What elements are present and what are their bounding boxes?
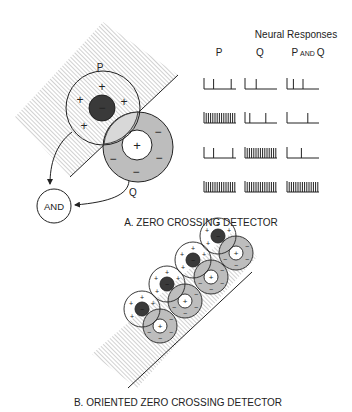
svg-text:−: −	[220, 280, 224, 287]
svg-text:−: −	[209, 286, 213, 293]
svg-text:−: −	[194, 291, 198, 298]
and-label: AND	[44, 201, 64, 212]
column-header-p: P	[216, 47, 223, 58]
svg-text:−: −	[183, 310, 187, 317]
svg-text:−: −	[169, 316, 173, 323]
svg-text:−: −	[172, 304, 176, 311]
spike-train-q-row-4	[245, 181, 277, 192]
column-header-p-and-q: PANDQ	[291, 47, 324, 58]
spike-train-p-and-q-row-4	[287, 181, 319, 192]
arrow-q-to-and	[75, 181, 129, 205]
svg-text:+: +	[181, 264, 185, 271]
caption-a: A. ZERO CROSSING DETECTOR	[124, 217, 278, 228]
svg-text:−: −	[234, 262, 238, 269]
and-gate: AND	[37, 189, 71, 223]
svg-text:−: −	[220, 267, 224, 274]
column-header-q: Q	[256, 47, 264, 58]
spike-train-p-row-4	[204, 181, 236, 192]
label-q: Q	[129, 187, 137, 198]
svg-text:+: +	[130, 313, 134, 320]
svg-text:−: −	[132, 165, 139, 179]
svg-text:−: −	[155, 151, 162, 165]
svg-text:+: +	[158, 322, 163, 331]
spike-train-p-and-q-row-1	[287, 78, 319, 89]
svg-text:−: −	[216, 233, 220, 240]
svg-text:+: +	[76, 93, 83, 107]
svg-text:+: +	[155, 288, 159, 295]
svg-text:−: −	[169, 329, 173, 336]
svg-text:+: +	[165, 269, 169, 276]
svg-text:+: +	[80, 119, 87, 133]
neural-responses-table: Neural Responses P Q PANDQ	[204, 29, 337, 192]
svg-text:+: +	[154, 275, 158, 282]
spike-train-p-row-2	[204, 112, 236, 123]
svg-text:+: +	[234, 249, 239, 258]
svg-text:+: +	[206, 240, 210, 247]
svg-text:+: +	[180, 251, 184, 258]
svg-text:−: −	[198, 280, 202, 287]
svg-text:−: −	[140, 306, 144, 313]
svg-text:+: +	[176, 275, 180, 282]
spike-train-p-and-q-row-3	[287, 147, 319, 158]
svg-text:−: −	[245, 243, 249, 250]
spike-train-q-row-1	[245, 78, 277, 89]
label-p: P	[97, 62, 104, 73]
svg-text:−: −	[147, 329, 151, 336]
svg-text:−: −	[194, 304, 198, 311]
svg-text:+: +	[120, 95, 127, 109]
svg-text:−: −	[245, 256, 249, 263]
neural-responses-title: Neural Responses	[255, 29, 337, 40]
spike-train-p-and-q-row-2	[287, 112, 319, 123]
svg-text:−: −	[223, 256, 227, 263]
spike-train-q-row-3	[245, 147, 277, 158]
svg-text:−: −	[154, 125, 161, 139]
spike-train-p-row-3	[204, 147, 236, 158]
svg-text:−: −	[109, 152, 116, 166]
panel-b-oriented-zero-crossing-detector: + − − − − − + + + + + − − − − − + + + + …	[74, 218, 282, 408]
svg-text:+: +	[129, 300, 133, 307]
svg-text:+: +	[183, 297, 188, 306]
spike-train-p-row-1	[204, 78, 236, 89]
spike-train-q-row-2	[245, 112, 277, 123]
panel-a-zero-crossing-detector: + − − − − − + + + + P Q AND A. ZERO CROS…	[15, 22, 278, 228]
svg-text:+: +	[140, 294, 144, 301]
svg-text:+: +	[209, 273, 214, 282]
svg-text:−: −	[191, 257, 195, 264]
svg-text:+: +	[227, 227, 231, 234]
svg-text:+: +	[133, 138, 141, 153]
svg-text:+: +	[216, 221, 220, 228]
svg-text:+: +	[151, 300, 155, 307]
svg-text:+: +	[202, 251, 206, 258]
svg-text:+: +	[98, 80, 105, 94]
svg-text:−: −	[98, 101, 105, 115]
svg-text:−: −	[165, 281, 169, 288]
caption-b: B. ORIENTED ZERO CROSSING DETECTOR	[74, 397, 282, 408]
svg-text:+: +	[205, 227, 209, 234]
svg-text:−: −	[158, 335, 162, 342]
svg-text:+: +	[191, 245, 195, 252]
